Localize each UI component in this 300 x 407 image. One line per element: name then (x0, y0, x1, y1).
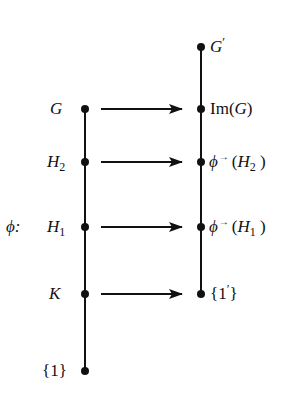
label-H1: H1 (47, 218, 65, 235)
node-dot-ImG (197, 105, 205, 113)
node-dot-H1 (81, 223, 89, 231)
label-K: K (49, 285, 60, 302)
node-dot-trivialprime (197, 290, 205, 298)
node-dot-trivial (81, 367, 89, 375)
nodes-layer (81, 43, 205, 375)
label-image-of-G: Im(G) (210, 100, 253, 117)
label-G: G (50, 100, 62, 117)
label-G-prime: G′ (210, 38, 225, 55)
lattice-diagram (0, 0, 300, 407)
node-dot-phiH1 (197, 223, 205, 231)
label-phi-colon: ϕ: (6, 218, 20, 235)
label-phi-image-H2: ϕ→(H2 ) (209, 153, 266, 170)
node-dot-phiH2 (197, 158, 205, 166)
node-dot-Gprime (197, 43, 205, 51)
arrows-layer (101, 109, 182, 294)
label-phi-image-H1: ϕ→(H1 ) (209, 218, 266, 235)
label-H2: H2 (47, 153, 65, 170)
node-dot-G (81, 105, 89, 113)
node-dot-K (81, 290, 89, 298)
label-trivial-subgroup: {1} (42, 362, 67, 379)
node-dot-H2 (81, 158, 89, 166)
label-trivial-subgroup-prime: {1′} (210, 285, 238, 302)
